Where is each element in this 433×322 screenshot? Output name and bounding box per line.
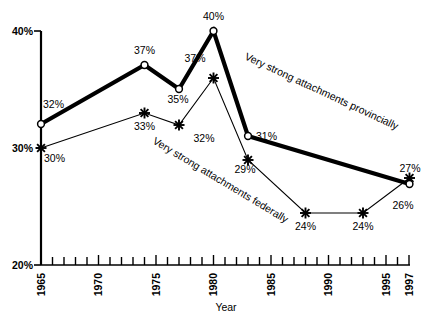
x-tick-marks	[41, 255, 409, 265]
data-label-federal-1997: 27%	[399, 162, 420, 174]
provincial-marker-1997	[406, 181, 413, 188]
x-axis-label-1985: 1985	[265, 273, 277, 297]
data-label-provincial-1965: 32%	[43, 98, 64, 110]
x-axis-label-1980: 1980	[207, 273, 219, 297]
provincial-marker-1965	[38, 121, 45, 128]
x-axis-label-1990: 1990	[322, 273, 334, 297]
data-label-provincial-1979: 35%	[167, 93, 188, 105]
x-axis-label-1965: 1965	[35, 273, 47, 297]
federal-marker-1980	[208, 73, 219, 84]
data-label-provincial-1997: 26%	[392, 199, 413, 211]
data-label-federal-1988: 24%	[295, 220, 316, 232]
x-axis-label-1995: 1995	[380, 273, 392, 297]
x-axis-label-1997: 1997	[403, 273, 415, 297]
federal-marker-1993	[358, 208, 369, 219]
line-chart: 40% 30% 20% 1965 1970 1975 1980 1985 199…	[0, 0, 433, 322]
series-annotation-provincial: Very strong attachments provincially	[243, 50, 401, 132]
provincial-marker-1979	[176, 86, 183, 93]
data-label-federal-1979: 32%	[193, 132, 214, 144]
data-label-federal-1980: 37%	[184, 52, 205, 64]
data-label-federal-1965: 30%	[44, 152, 65, 164]
federal-marker-1988	[300, 208, 311, 219]
y-axis-label-30: 30%	[12, 142, 34, 154]
data-label-federal-1974: 33%	[134, 120, 155, 132]
federal-marker-1979	[174, 120, 185, 131]
data-label-provincial-1980: 40%	[203, 10, 224, 22]
provincial-marker-1980	[210, 28, 217, 35]
data-label-federal-1993: 24%	[352, 220, 373, 232]
provincial-marker-1974	[141, 62, 148, 69]
chart-container: 40% 30% 20% 1965 1970 1975 1980 1985 199…	[0, 0, 433, 322]
data-label-provincial-1984: 31%	[256, 130, 277, 142]
x-axis-label-1975: 1975	[150, 273, 162, 297]
federal-marker-1974	[139, 108, 150, 119]
y-axis-label-20: 20%	[12, 259, 34, 271]
federal-line	[41, 78, 410, 213]
provincial-marker-1984	[245, 133, 252, 140]
y-axis-label-40: 40%	[12, 25, 34, 37]
x-axis-label-1970: 1970	[92, 273, 104, 297]
data-label-provincial-1974: 37%	[134, 44, 155, 56]
data-label-federal-1984: 29%	[234, 163, 255, 175]
x-axis-title: Year	[215, 301, 237, 313]
